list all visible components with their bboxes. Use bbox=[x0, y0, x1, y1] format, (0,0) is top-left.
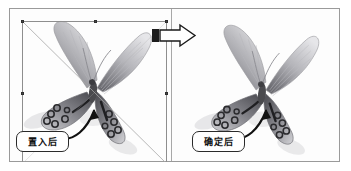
right-forewing bbox=[266, 36, 319, 94]
screenshot-root: 置入后 确定后 bbox=[0, 0, 351, 171]
resize-handle-top-center[interactable] bbox=[94, 20, 97, 23]
callout-before: 置入后 bbox=[16, 131, 69, 152]
resize-handle-middle-left[interactable] bbox=[21, 92, 24, 95]
right-arrow-icon bbox=[152, 24, 196, 48]
resize-handle-top-right[interactable] bbox=[165, 20, 168, 23]
resize-handle-top-left[interactable] bbox=[21, 20, 24, 23]
callout-after: 确定后 bbox=[192, 131, 245, 152]
callout-after-label: 确定后 bbox=[204, 135, 234, 148]
resize-handle-middle-right[interactable] bbox=[165, 92, 168, 95]
callout-before-label: 置入后 bbox=[28, 135, 58, 148]
